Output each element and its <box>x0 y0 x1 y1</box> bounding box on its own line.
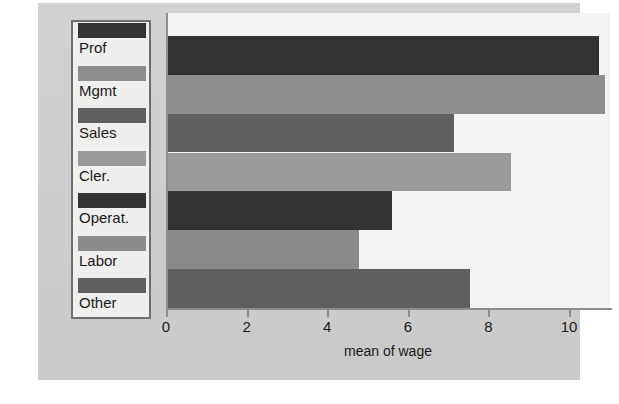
bar-other <box>168 269 470 308</box>
x-tick-label-2: 2 <box>242 319 250 334</box>
bar-operat <box>168 191 392 230</box>
legend-label: Operat. <box>79 210 129 225</box>
x-tick-0 <box>166 308 168 317</box>
legend-label: Other <box>79 295 117 310</box>
x-tick-8 <box>488 308 490 317</box>
legend-swatch-icon <box>78 278 146 293</box>
legend-item-other[interactable]: Other <box>73 277 149 320</box>
x-tick-2 <box>247 308 249 317</box>
legend-item-operat[interactable]: Operat. <box>73 192 149 235</box>
legend-label: Mgmt <box>79 83 117 98</box>
x-tick-label-8: 8 <box>484 319 492 334</box>
legend-label: Sales <box>79 125 117 140</box>
bar-mgmt <box>168 75 605 114</box>
bar-cler <box>168 153 511 192</box>
figure-panel: 0246810 mean of wage ProfMgmtSalesCler.O… <box>38 3 580 380</box>
legend-item-labor[interactable]: Labor <box>73 235 149 278</box>
x-tick-label-4: 4 <box>323 319 331 334</box>
legend-swatch-icon <box>78 236 146 251</box>
x-tick-6 <box>408 308 410 317</box>
legend-swatch-icon <box>78 151 146 166</box>
legend-swatch-icon <box>78 193 146 208</box>
plot-area <box>166 13 610 308</box>
bar-group <box>168 36 610 308</box>
x-tick-label-0: 0 <box>162 319 170 334</box>
legend-swatch-icon <box>78 108 146 123</box>
legend-item-cler[interactable]: Cler. <box>73 150 149 193</box>
legend-label: Cler. <box>79 168 110 183</box>
legend-label: Prof <box>79 40 107 55</box>
x-tick-label-10: 10 <box>561 319 578 334</box>
x-tick-label-6: 6 <box>404 319 412 334</box>
legend-swatch-icon <box>78 66 146 81</box>
bar-prof <box>168 36 599 75</box>
legend-item-mgmt[interactable]: Mgmt <box>73 65 149 108</box>
legend-swatch-icon <box>78 23 146 38</box>
bar-labor <box>168 230 359 269</box>
bar-sales <box>168 114 454 153</box>
legend-item-sales[interactable]: Sales <box>73 107 149 150</box>
x-axis-label: mean of wage <box>344 343 432 359</box>
chart-screenshot: 0246810 mean of wage ProfMgmtSalesCler.O… <box>0 0 619 404</box>
legend-item-prof[interactable]: Prof <box>73 22 149 65</box>
x-tick-10 <box>569 308 571 317</box>
legend: ProfMgmtSalesCler.Operat.LaborOther <box>71 20 151 319</box>
x-tick-4 <box>327 308 329 317</box>
legend-label: Labor <box>79 253 117 268</box>
x-axis-line <box>166 308 612 310</box>
